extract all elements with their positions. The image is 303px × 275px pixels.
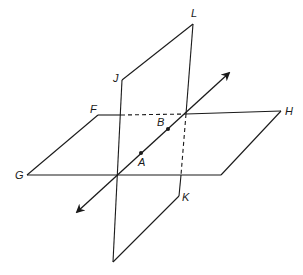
hidden-edge-0: [121, 114, 186, 115]
vertex-label-g: G: [15, 169, 24, 181]
diagram-stage: AB LJFHGK: [0, 0, 303, 275]
vertex-label-h: H: [285, 105, 293, 117]
point-label-b: B: [157, 116, 164, 128]
vertex-label-k: K: [182, 191, 190, 203]
vertex-label-f: F: [90, 103, 98, 115]
hidden-edge-1: [181, 114, 186, 175]
edge-g-to-f: [27, 115, 98, 175]
intersecting-planes-diagram: AB LJFHGK: [0, 0, 303, 275]
line-ab: [77, 73, 229, 212]
edge-front-vertical: [113, 80, 122, 262]
line-ab-arrowed: [77, 73, 229, 212]
vertex-labels: LJFHGK: [15, 7, 293, 203]
vertex-label-l: L: [191, 7, 197, 19]
horizontal-plane-fgh: [27, 111, 281, 175]
point-label-a: A: [137, 156, 145, 168]
edge-l-down: [186, 24, 193, 114]
edge-to-k: [179, 175, 181, 196]
edge-j-to-l: [122, 24, 193, 80]
edge-k-to-bottom: [113, 196, 179, 262]
point-b: [166, 127, 170, 131]
edge-h-to-corner: [221, 111, 281, 175]
edge-to-h: [186, 111, 281, 114]
point-a: [139, 151, 143, 155]
hidden-edges: [121, 114, 186, 175]
vertex-label-j: J: [112, 72, 119, 84]
